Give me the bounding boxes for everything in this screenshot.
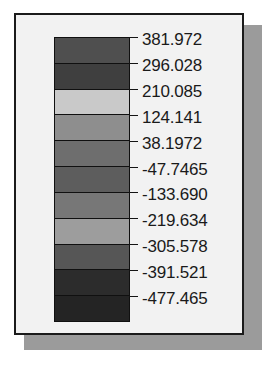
colorbar-band (55, 245, 129, 271)
colorbar-tick-marks (129, 37, 138, 322)
colorbar-tick-label: 38.1972 (142, 135, 240, 152)
colorbar-tick-label: 296.028 (142, 57, 240, 74)
colorbar-tick-labels: 381.972296.028210.085124.14138.1972-47.7… (142, 31, 240, 331)
colorbar-band (55, 219, 129, 245)
colorbar-tick (129, 218, 138, 219)
colorbar-band (55, 270, 129, 296)
colorbar-band (55, 38, 129, 64)
legend-scene: 381.972296.028210.085124.14138.1972-47.7… (0, 0, 272, 369)
colorbar-band (55, 90, 129, 116)
colorbar-tick (129, 63, 138, 64)
colorbar-tick-label: -305.578 (142, 238, 240, 255)
colorbar-tick-label: 381.972 (142, 31, 240, 48)
colorbar-tick-label: 124.141 (142, 109, 240, 126)
colorbar-tick (129, 270, 138, 271)
colorbar-tick (129, 296, 138, 297)
colorbar-tick-label: 210.085 (142, 83, 240, 100)
colorbar-band (55, 64, 129, 90)
colorbar-tick (129, 192, 138, 193)
colorbar-tick (129, 89, 138, 90)
colorbar-tick (129, 244, 138, 245)
colorbar-band (55, 167, 129, 193)
colorbar-tick (129, 115, 138, 116)
colorbar-band (55, 193, 129, 219)
colorbar-band (55, 296, 129, 321)
colorbar-tick-label: -219.634 (142, 212, 240, 229)
colorbar-tick-label: -133.690 (142, 186, 240, 203)
colorbar-tick-label: -47.7465 (142, 161, 240, 178)
colorbar-tick-label: -477.465 (142, 290, 240, 307)
colorbar-tick-label: -391.521 (142, 264, 240, 281)
colorbar-gradient-strip (54, 37, 130, 322)
colorbar-band (55, 115, 129, 141)
colorbar-tick (129, 37, 138, 38)
colorbar-legend-panel: 381.972296.028210.085124.14138.1972-47.7… (14, 13, 244, 335)
colorbar-tick (129, 167, 138, 168)
colorbar-tick (129, 141, 138, 142)
colorbar-band (55, 141, 129, 167)
